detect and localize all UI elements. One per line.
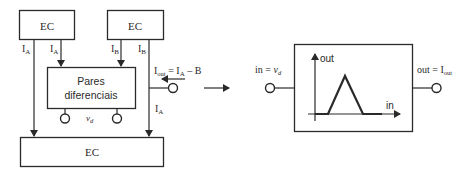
bottom-ec-label: EC — [85, 146, 99, 158]
output-current-equation: Iout = IA – B — [154, 65, 202, 78]
top-right-ec-label: EC — [128, 20, 142, 32]
bottom-ec-block: EC — [21, 138, 164, 167]
input-terminal-right — [113, 114, 122, 123]
input-label: in = vd — [255, 64, 282, 76]
differential-pair-block: Pares diferenciais — [48, 68, 136, 109]
diff-pair-label-line1: Pares — [77, 75, 104, 87]
input-terminal — [266, 84, 275, 93]
top-left-ec-block: EC — [20, 11, 75, 40]
label-ia-left-outer: IA — [22, 43, 30, 56]
right-diagram: in = vd out = Iout out in — [255, 45, 452, 132]
left-diagram: EC EC Pares diferenciais EC — [20, 11, 202, 167]
graph-x-axis-label: in — [386, 100, 394, 111]
transfer-function-block — [295, 45, 413, 132]
output-terminal — [432, 84, 441, 93]
diff-pair-label-line2: diferenciais — [64, 89, 117, 101]
block-diagram: EC EC Pares diferenciais EC — [0, 0, 469, 175]
graph-y-axis-label: out — [320, 53, 334, 64]
top-right-ec-block: EC — [108, 11, 164, 40]
output-label: out = Iout — [417, 64, 452, 76]
label-ia-left-inner: IA — [50, 43, 58, 56]
top-left-ec-label: EC — [40, 20, 54, 32]
output-terminal — [169, 84, 178, 93]
label-ia-right-lower: IA — [155, 103, 163, 116]
label-ib-right-inner: IB — [111, 43, 119, 56]
label-ib-right-outer: IB — [138, 43, 146, 56]
input-terminal-left — [61, 114, 70, 123]
input-voltage-label: vd — [86, 113, 94, 124]
